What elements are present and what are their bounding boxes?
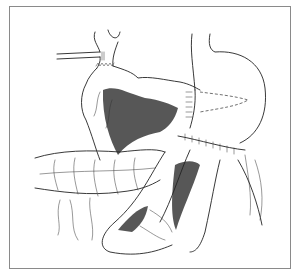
transverse-colon	[35, 150, 165, 196]
duodenum	[82, 30, 201, 160]
surgical-illustration	[0, 0, 297, 277]
anastomosis-sutures	[178, 134, 245, 154]
drain-tube	[57, 52, 100, 59]
